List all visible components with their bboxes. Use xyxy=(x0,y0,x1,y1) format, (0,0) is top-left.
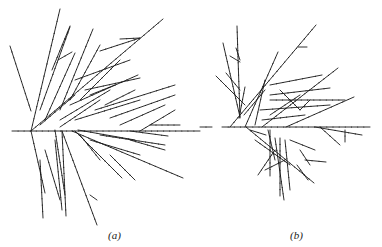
node-marker xyxy=(59,86,60,87)
node-marker xyxy=(126,79,127,80)
node-marker xyxy=(279,176,280,177)
node-marker xyxy=(149,163,150,164)
node-marker xyxy=(296,142,297,143)
node-marker xyxy=(287,92,288,93)
node-marker xyxy=(289,126,290,127)
node-marker xyxy=(240,126,241,127)
node-marker xyxy=(205,126,206,127)
node-marker xyxy=(91,149,92,150)
node-marker xyxy=(259,105,260,106)
node-marker xyxy=(54,181,55,182)
node-marker xyxy=(62,181,63,182)
node-marker xyxy=(312,29,313,30)
node-marker xyxy=(92,114,93,115)
node-marker xyxy=(27,99,28,100)
node-marker xyxy=(296,48,297,49)
node-marker xyxy=(302,144,303,145)
node-marker xyxy=(128,103,129,104)
node-marker xyxy=(252,109,253,110)
node-marker xyxy=(92,78,93,79)
caption-a: (a) xyxy=(108,229,121,241)
node-marker xyxy=(308,77,309,78)
node-marker xyxy=(308,34,309,35)
node-marker xyxy=(52,74,53,75)
node-marker xyxy=(260,94,261,95)
node-marker xyxy=(269,162,270,163)
node-marker xyxy=(75,102,76,103)
node-marker xyxy=(250,115,251,116)
node-marker xyxy=(85,46,86,47)
node-marker xyxy=(153,109,154,110)
node-marker xyxy=(151,123,152,124)
node-marker xyxy=(122,95,123,96)
node-marker xyxy=(65,209,66,210)
node-marker xyxy=(105,49,106,50)
node-marker xyxy=(111,47,112,48)
node-marker xyxy=(279,163,280,164)
node-marker xyxy=(89,106,90,107)
node-marker xyxy=(279,183,280,184)
node-marker xyxy=(54,33,55,34)
tree-b xyxy=(200,25,370,200)
node-marker xyxy=(167,124,168,125)
node-marker xyxy=(282,82,283,83)
node-marker xyxy=(294,104,295,105)
node-marker xyxy=(131,98,132,99)
node-marker xyxy=(161,135,162,136)
node-marker xyxy=(50,80,51,81)
node-marker xyxy=(286,158,287,159)
node-marker xyxy=(74,75,75,76)
node-marker xyxy=(100,156,101,157)
node-marker xyxy=(124,169,125,170)
node-marker xyxy=(260,92,261,93)
node-marker xyxy=(269,136,270,137)
node-marker xyxy=(88,201,89,202)
node-marker xyxy=(36,155,37,156)
node-marker xyxy=(339,126,340,127)
node-marker xyxy=(247,121,248,122)
node-marker xyxy=(117,173,118,174)
node-marker xyxy=(323,88,324,89)
node-marker xyxy=(64,191,65,192)
node-marker xyxy=(103,85,104,86)
node-marker xyxy=(81,183,82,184)
branch-segment xyxy=(10,46,31,111)
node-marker xyxy=(138,159,139,160)
node-marker xyxy=(46,63,47,64)
node-marker xyxy=(311,160,312,161)
node-marker xyxy=(56,187,57,188)
node-marker xyxy=(269,143,270,144)
node-marker xyxy=(314,114,315,115)
node-marker xyxy=(98,112,99,113)
node-marker xyxy=(238,110,239,111)
node-marker xyxy=(144,94,145,95)
node-marker xyxy=(60,190,61,191)
node-marker xyxy=(257,132,258,133)
node-marker xyxy=(285,146,286,147)
node-marker xyxy=(275,94,276,95)
node-marker xyxy=(220,80,221,81)
node-marker xyxy=(121,152,122,153)
node-marker xyxy=(86,97,87,98)
node-marker xyxy=(91,88,92,89)
node-marker xyxy=(52,103,53,104)
node-marker xyxy=(131,119,132,120)
node-marker xyxy=(44,120,45,121)
node-marker xyxy=(276,83,277,84)
node-marker xyxy=(58,15,59,16)
node-marker xyxy=(126,38,127,39)
node-marker xyxy=(57,165,58,166)
node-marker xyxy=(157,101,158,102)
node-marker xyxy=(227,61,228,62)
node-marker xyxy=(147,144,148,145)
node-marker xyxy=(62,80,63,81)
node-marker xyxy=(58,171,59,172)
node-marker xyxy=(272,109,273,110)
node-marker xyxy=(61,203,62,204)
node-marker xyxy=(289,101,290,102)
node-marker xyxy=(123,62,124,63)
node-marker xyxy=(112,136,113,137)
node-marker xyxy=(127,151,128,152)
node-marker xyxy=(145,105,146,106)
node-marker xyxy=(308,147,309,148)
